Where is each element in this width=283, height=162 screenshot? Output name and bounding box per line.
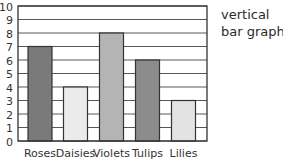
y-tick-label: 1 [6,122,13,135]
y-tick-label: 9 [6,14,13,27]
y-axis-tick-labels: 012345678910 [0,1,13,149]
x-axis-category-labels: RosesDaisiesVioletsTulipsLilies [24,147,198,160]
x-label-violets: Violets [93,147,130,160]
bar-roses [28,47,52,142]
chart-caption: vertical bar graph [221,6,283,40]
y-tick-label: 7 [6,41,13,54]
y-tick-label: 0 [6,136,13,149]
caption-line-1: vertical [221,6,283,23]
bar-lilies [172,101,196,142]
y-tick-label: 2 [6,109,13,122]
y-tick-label: 8 [6,28,13,41]
x-label-lilies: Lilies [170,147,198,160]
bar-tulips [136,60,160,141]
bar-daisies [64,87,88,141]
y-tick-label: 4 [6,82,13,95]
y-tick-label: 6 [6,55,13,68]
y-tick-label: 10 [0,1,13,14]
y-tick-label: 5 [6,68,13,81]
bar-violets [100,33,124,141]
x-label-daisies: Daisies [56,147,96,160]
x-label-tulips: Tulips [131,147,163,160]
x-label-roses: Roses [24,147,56,160]
caption-line-2: bar graph [221,23,283,40]
y-tick-label: 3 [6,95,13,108]
